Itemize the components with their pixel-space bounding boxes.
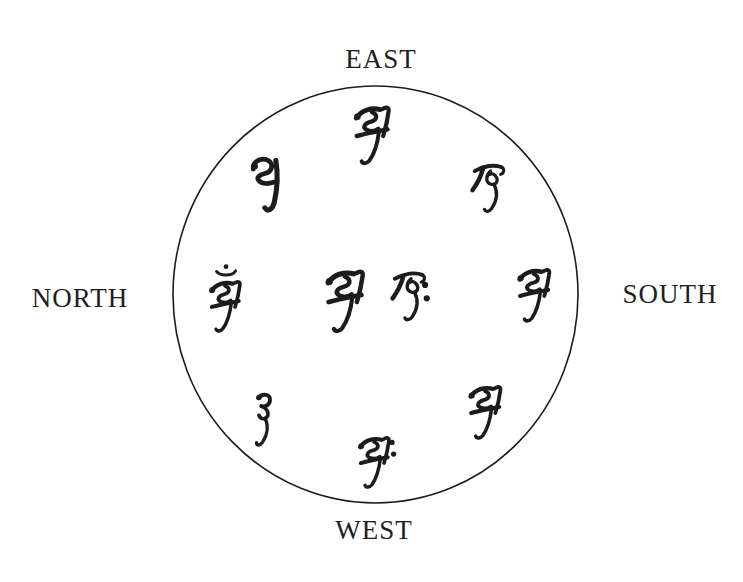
siddham-syllable-upper-left-icon bbox=[251, 159, 277, 210]
siddham-syllable-south-icon bbox=[518, 270, 550, 321]
seed-syllable-direction-diagram: EAST NORTH SOUTH WEST bbox=[0, 0, 743, 582]
siddham-syllable-lower-left-icon bbox=[256, 395, 270, 445]
siddham-syllable-west-icon bbox=[358, 438, 396, 487]
siddham-syllable-east-icon bbox=[354, 108, 389, 164]
direction-label-north: NORTH bbox=[32, 283, 128, 314]
siddham-syllable-center-right-icon bbox=[393, 273, 430, 319]
siddham-syllable-north-icon bbox=[209, 264, 240, 331]
siddham-syllable-center-left-icon bbox=[326, 272, 363, 331]
siddham-syllable-lower-right-icon bbox=[469, 387, 501, 438]
direction-label-west: WEST bbox=[335, 515, 413, 546]
siddham-syllable-upper-right-icon bbox=[472, 166, 503, 212]
direction-label-south: SOUTH bbox=[622, 279, 717, 310]
direction-label-east: EAST bbox=[345, 44, 417, 75]
